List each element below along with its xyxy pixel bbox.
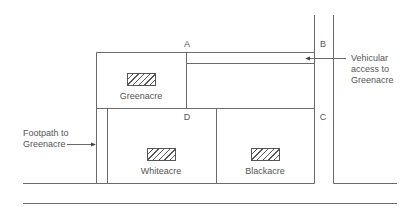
vehicular-annotation-line-2: access to xyxy=(351,64,394,75)
greenacre-label: Greenacre xyxy=(120,91,163,102)
footpath-annotation-line-2: Greenacre xyxy=(23,139,69,150)
footpath-arrowhead-icon xyxy=(91,143,96,147)
vehicular-arrowhead-icon xyxy=(305,57,310,61)
point-d-label: D xyxy=(184,112,191,123)
plan-lines xyxy=(0,0,417,210)
blackacre-label: Blackacre xyxy=(245,166,285,177)
vehicular-access-annotation: Vehicular access to Greenacre xyxy=(351,53,394,86)
vehicular-annotation-line-3: Greenacre xyxy=(351,75,394,86)
whiteacre-hatch-icon xyxy=(147,148,176,161)
footpath-annotation: Footpath to Greenacre xyxy=(23,128,69,150)
footpath-annotation-line-1: Footpath to xyxy=(23,128,69,139)
whiteacre-label: Whiteacre xyxy=(141,166,182,177)
point-b-label: B xyxy=(320,39,326,50)
blackacre-hatch-icon xyxy=(251,148,280,161)
point-a-label: A xyxy=(184,39,190,50)
greenacre-hatch-icon xyxy=(127,73,156,86)
point-c-label: C xyxy=(320,112,327,123)
vehicular-annotation-line-1: Vehicular xyxy=(351,53,394,64)
land-plan-diagram: A B C D Greenacre Whiteacre Blackacre Ve… xyxy=(0,0,417,210)
